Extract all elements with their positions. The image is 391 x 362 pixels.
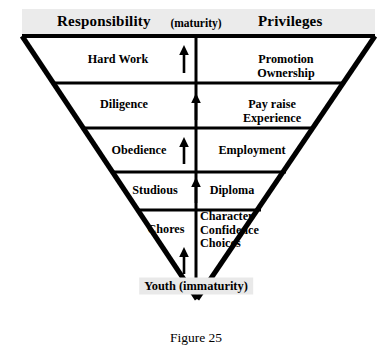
row-5-privileges: Character Confidence Choices [200, 210, 259, 251]
row-5-responsibility: Chores [147, 223, 184, 237]
row-2-privileges-line-2: Experience [243, 111, 301, 125]
row-1-privileges-line-2: Ownership [257, 66, 315, 80]
triangle-diagram-graphics [0, 0, 391, 362]
row-4-privileges: Diploma [210, 184, 255, 198]
row-5-responsibility-text: Chores [147, 223, 184, 237]
figure-container: Responsibility (maturity) Privileges [0, 0, 391, 362]
row-1-responsibility: Hard Work [88, 53, 148, 67]
row-3-responsibility-text: Obedience [112, 144, 167, 158]
row-2-privileges-line-1: Pay raise [243, 98, 301, 112]
up-arrow-row-4 [191, 177, 201, 203]
up-arrow-row-3 [179, 137, 189, 164]
row-2-privileges: Pay raise Experience [243, 98, 301, 125]
row-3-privileges: Employment [218, 144, 285, 158]
row-5-privileges-line-3: Choices [200, 237, 259, 251]
row-4-responsibility-text: Studious [132, 184, 177, 198]
row-5-privileges-line-2: Confidence [200, 223, 259, 237]
figure-caption: Figure 25 [170, 330, 222, 346]
up-arrow-row-2 [191, 93, 201, 120]
row-2-responsibility-text: Diligence [100, 98, 148, 112]
row-1-privileges: Promotion Ownership [257, 53, 315, 80]
row-3-privileges-line-1: Employment [218, 144, 285, 158]
row-5-privileges-line-1: Character [200, 210, 259, 224]
apex-youth-label: Youth (immaturity) [139, 278, 253, 295]
row-3-responsibility: Obedience [112, 144, 167, 158]
row-1-privileges-line-1: Promotion [257, 53, 315, 67]
row-1-responsibility-text: Hard Work [88, 53, 148, 67]
row-4-responsibility: Studious [132, 184, 177, 198]
triangle-left-edge [22, 36, 197, 299]
row-2-responsibility: Diligence [100, 98, 148, 112]
up-arrow-row-1 [179, 45, 189, 73]
row-4-privileges-line-1: Diploma [210, 184, 255, 198]
